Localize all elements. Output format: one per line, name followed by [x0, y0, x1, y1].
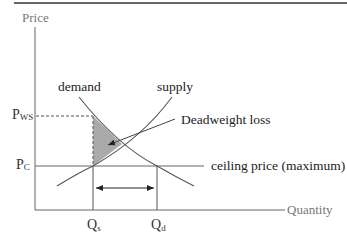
pc-label: PC — [16, 158, 30, 172]
qs-sub: s — [97, 223, 101, 233]
qd-main: Q — [151, 217, 161, 232]
price-ceiling-diagram: Price Quantity demand supply Deadweight … — [0, 0, 347, 241]
qs-main: Q — [87, 217, 97, 232]
deadweight-loss-pointer — [108, 119, 175, 145]
x-axis-label: Quantity — [287, 203, 333, 216]
pws-sub: WS — [20, 112, 34, 122]
ceiling-price-label: ceiling price (maximum) — [211, 159, 345, 173]
pc-sub: C — [24, 162, 30, 172]
qd-sub: d — [161, 223, 166, 233]
qs-label: Qs — [87, 218, 101, 232]
demand-label: demand — [58, 80, 101, 94]
deadweight-loss-label: Deadweight loss — [181, 113, 271, 127]
supply-label: supply — [157, 80, 193, 94]
pws-label: PWS — [12, 108, 33, 122]
pc-main: P — [16, 157, 24, 172]
y-axis-label: Price — [22, 11, 49, 24]
qd-label: Qd — [151, 218, 166, 232]
pws-main: P — [12, 107, 20, 122]
